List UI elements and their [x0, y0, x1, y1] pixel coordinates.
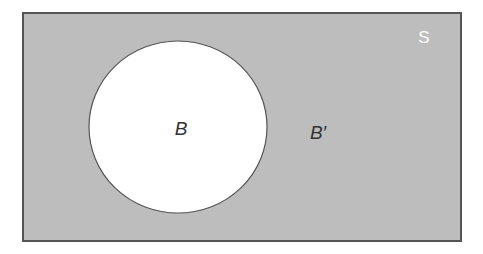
venn-diagram: S B B′: [0, 0, 483, 254]
universal-set-label: S: [418, 28, 429, 47]
complement-b-label: B′: [310, 122, 328, 143]
set-b-label: B: [175, 118, 188, 139]
